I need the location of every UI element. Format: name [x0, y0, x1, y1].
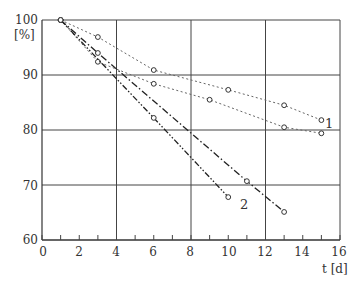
data-point-marker [95, 51, 100, 56]
y-axis-unit: [%] [14, 29, 35, 41]
data-point-marker [319, 131, 324, 136]
data-point-marker [226, 195, 231, 200]
x-tick-6: 6 [143, 246, 163, 258]
x-tick-12: 12 [255, 246, 275, 258]
series-line-2a [61, 20, 285, 212]
chart-plot [0, 0, 362, 287]
data-point-marker [151, 116, 156, 121]
data-point-marker [58, 18, 63, 23]
x-tick-2: 2 [69, 246, 89, 258]
series-line-2b [61, 20, 229, 197]
y-tick-60: 60 [8, 234, 38, 246]
x-tick-8: 8 [180, 246, 200, 258]
data-point-marker [244, 179, 249, 184]
data-point-marker [226, 87, 231, 92]
curve-label-1: 1 [325, 117, 333, 130]
x-tick-10: 10 [219, 246, 239, 258]
data-point-marker [151, 68, 156, 73]
data-point-marker [319, 118, 324, 123]
y-tick-70: 70 [8, 180, 38, 192]
x-axis-unit: t [d] [322, 263, 348, 275]
data-point-marker [95, 35, 100, 40]
x-tick-4: 4 [106, 246, 126, 258]
y-tick-90: 90 [8, 69, 38, 81]
data-point-marker [207, 97, 212, 102]
data-point-marker [282, 125, 287, 130]
y-tick-80: 80 [8, 124, 38, 136]
data-point-marker [282, 210, 287, 215]
x-tick-0: 0 [33, 246, 53, 258]
data-point-marker [151, 81, 156, 86]
curve-label-2: 2 [240, 198, 248, 211]
x-tick-14: 14 [292, 246, 312, 258]
x-tick-16: 16 [329, 246, 349, 258]
y-tick-100: 100 [8, 14, 38, 26]
data-point-marker [282, 103, 287, 108]
